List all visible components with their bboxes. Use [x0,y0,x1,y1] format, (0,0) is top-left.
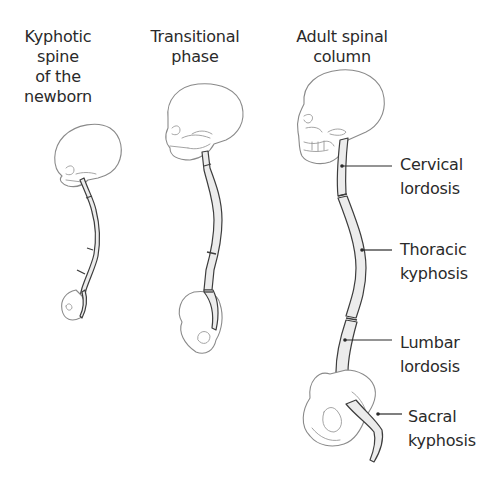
transitional-spine [202,151,222,290]
disc [77,270,85,274]
newborn-pelvis [62,290,87,320]
label-line: Sacral [408,405,476,429]
newborn-figure [55,124,122,320]
disc [87,248,93,250]
label-line: Thoracic [400,238,468,262]
label-thoracic-kyphosis: Thoracic kyphosis [400,238,468,286]
label-sacral-kyphosis: Sacral kyphosis [408,405,476,453]
adult-pelvis [303,370,375,446]
transitional-skull [166,84,243,160]
label-line: lordosis [400,355,460,379]
adult-spine [336,138,366,402]
label-line: kyphosis [408,429,476,453]
label-line: kyphosis [400,262,468,286]
label-line: Cervical [400,153,463,177]
label-lumbar-lordosis: Lumbar lordosis [400,331,460,379]
leader-sacral [376,412,402,416]
adult-figure [297,70,402,462]
label-line: Lumbar [400,331,460,355]
label-cervical-lordosis: Cervical lordosis [400,153,463,201]
newborn-spine [77,178,99,298]
label-line: lordosis [400,177,463,201]
newborn-skull [55,124,122,186]
transitional-figure [166,84,243,354]
leader-cervical [340,164,392,168]
transitional-pelvis [179,290,222,353]
